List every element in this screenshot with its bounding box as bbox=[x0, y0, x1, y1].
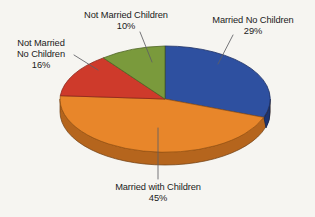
slice-label-name: Married No Children bbox=[196, 15, 310, 26]
slice-label-name-line1: Not Married bbox=[2, 38, 80, 49]
slice-label-married-with-children: Married with Children 45% bbox=[95, 182, 221, 204]
slice-label-percent: 16% bbox=[2, 60, 80, 71]
slice-label-not-married-no-children: Not Married No Children 16% bbox=[2, 38, 80, 72]
slice-label-not-married-children: Not Married Children 10% bbox=[70, 10, 182, 32]
slice-label-name-line2: No Children bbox=[2, 49, 80, 60]
slice-label-percent: 45% bbox=[95, 193, 221, 204]
slice-label-married-no-children: Married No Children 29% bbox=[196, 15, 310, 37]
slice-label-name: Not Married Children bbox=[70, 10, 182, 21]
slice-label-percent: 29% bbox=[196, 26, 310, 37]
slice-label-percent: 10% bbox=[70, 21, 182, 32]
pie-chart: Not Married Children 10% Married No Chil… bbox=[0, 0, 315, 217]
slice-label-name: Married with Children bbox=[95, 182, 221, 193]
